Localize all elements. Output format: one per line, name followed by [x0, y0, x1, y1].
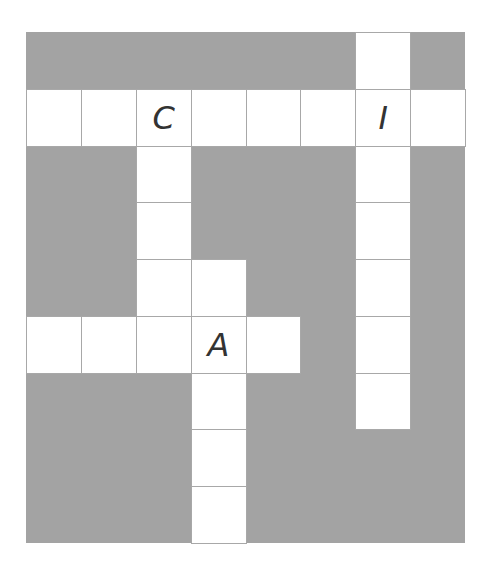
crossword-cell-r5-c1[interactable] [81, 316, 137, 374]
cell-letter: I [378, 102, 387, 134]
crossword-cell-r5-c3[interactable]: A [191, 316, 247, 374]
crossword-cell-r4-c2[interactable] [136, 259, 192, 317]
crossword-cell-r1-c2[interactable]: C [136, 89, 192, 147]
crossword-cell-r1-c7[interactable] [410, 89, 466, 147]
cell-letter: C [153, 102, 175, 134]
crossword-cell-r3-c2[interactable] [136, 202, 192, 260]
crossword-cell-r1-c4[interactable] [246, 89, 302, 147]
crossword-cell-r4-c6[interactable] [355, 259, 411, 317]
crossword-cell-r1-c6[interactable]: I [355, 89, 411, 147]
cell-letter: A [208, 329, 230, 361]
crossword-cell-r2-c6[interactable] [355, 146, 411, 204]
crossword-grid: CIA [26, 32, 465, 543]
crossword-cell-r1-c0[interactable] [26, 89, 82, 147]
crossword-cell-r4-c3[interactable] [191, 259, 247, 317]
crossword-cell-r2-c2[interactable] [136, 146, 192, 204]
crossword-cell-r6-c3[interactable] [191, 373, 247, 431]
crossword-cell-r1-c1[interactable] [81, 89, 137, 147]
crossword-cell-r7-c3[interactable] [191, 429, 247, 487]
crossword-cell-r5-c0[interactable] [26, 316, 82, 374]
crossword-cell-r3-c6[interactable] [355, 202, 411, 260]
crossword-cell-r5-c4[interactable] [246, 316, 302, 374]
crossword-cell-r0-c6[interactable] [355, 32, 411, 90]
crossword-cell-r6-c6[interactable] [355, 373, 411, 431]
crossword-cell-r1-c5[interactable] [300, 89, 356, 147]
crossword-cell-r8-c3[interactable] [191, 486, 247, 544]
crossword-cell-r5-c6[interactable] [355, 316, 411, 374]
crossword-cell-r1-c3[interactable] [191, 89, 247, 147]
crossword-cell-r5-c2[interactable] [136, 316, 192, 374]
